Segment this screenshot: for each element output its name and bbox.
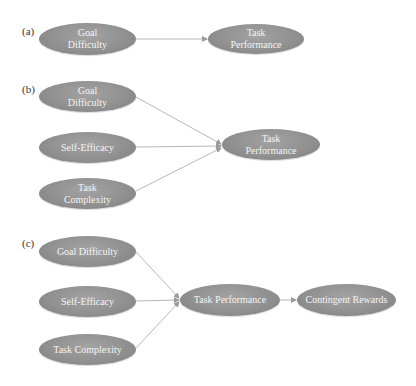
edge-b-complexity-to-perf — [136, 148, 221, 191]
node-a-goal-difficulty: Goal Difficulty — [39, 23, 136, 55]
node-b-task-complexity: Task Complexity — [39, 178, 136, 209]
node-b-self-efficacy: Self-Efficacy — [39, 132, 136, 163]
node-label: Task Complexity — [64, 182, 111, 206]
node-label: Task Complexity — [53, 344, 121, 356]
node-b-task-performance: Task Performance — [222, 129, 320, 160]
node-c-contingent-rewards: Contingent Rewards — [297, 284, 396, 316]
node-label: Goal Difficulty — [57, 246, 118, 258]
node-label: Task Performance — [245, 133, 296, 157]
node-label: Self-Efficacy — [61, 296, 114, 308]
edge-b-goal-to-perf — [136, 97, 221, 144]
panel-label-a: (a) — [22, 25, 34, 37]
edge-c-goal-to-perf — [136, 252, 179, 298]
node-label: Task Performance — [230, 27, 281, 51]
node-label: Task Performance — [194, 294, 266, 306]
edge-c-complexity-to-perf — [136, 302, 179, 348]
node-label: Self-Efficacy — [61, 142, 114, 154]
node-c-task-complexity: Task Complexity — [39, 334, 136, 365]
node-label: Goal Difficulty — [68, 85, 107, 109]
node-label: Goal Difficulty — [68, 27, 107, 51]
edge-b-selfeff-to-perf — [136, 146, 221, 147]
panel-label-c: (c) — [22, 237, 34, 249]
node-c-goal-difficulty: Goal Difficulty — [39, 236, 136, 267]
node-c-self-efficacy: Self-Efficacy — [39, 286, 136, 317]
node-c-task-performance: Task Performance — [180, 284, 280, 316]
edge-c-selfeff-to-perf — [136, 300, 179, 301]
node-a-task-performance: Task Performance — [208, 24, 304, 54]
node-b-goal-difficulty: Goal Difficulty — [39, 81, 136, 112]
node-label: Contingent Rewards — [306, 294, 388, 306]
panel-label-b: (b) — [22, 83, 35, 95]
